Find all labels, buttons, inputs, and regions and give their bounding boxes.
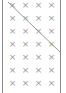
diagonal-line bbox=[0, 0, 66, 93]
